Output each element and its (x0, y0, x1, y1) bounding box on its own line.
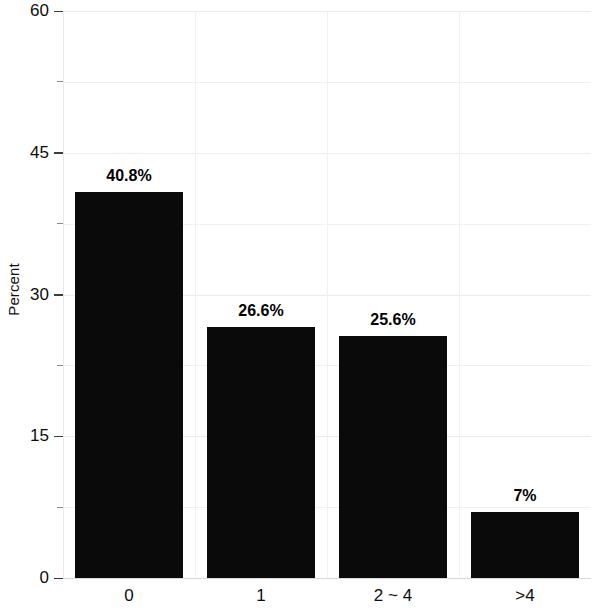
y-tick-mark (54, 152, 63, 154)
bar (471, 512, 579, 578)
y-tick: 60 (0, 11, 63, 12)
bar-value-label: 7% (455, 487, 595, 505)
x-tick-label: 0 (59, 586, 199, 606)
y-tick-label: 45 (30, 142, 49, 163)
x-tick-label: 2 ~ 4 (323, 586, 463, 606)
y-tick-mark-minor (57, 81, 63, 82)
y-tick-label: 60 (30, 0, 49, 21)
x-tick-label: >4 (455, 586, 595, 606)
bar (75, 192, 183, 578)
y-tick-minor (0, 365, 63, 366)
y-tick-minor (0, 224, 63, 225)
y-tick-mark (54, 294, 63, 296)
y-tick-mark-minor (57, 223, 63, 224)
y-tick: 15 (0, 436, 63, 437)
x-axis-line (63, 578, 591, 579)
bar-value-label: 25.6% (323, 311, 463, 329)
gridline-vertical (327, 11, 328, 578)
x-tick-label: 1 (191, 586, 331, 606)
bar (339, 336, 447, 578)
y-tick-label: 15 (30, 425, 49, 446)
y-tick-mark-minor (57, 507, 63, 508)
y-tick-mark (54, 436, 63, 438)
y-tick-mark (54, 578, 63, 580)
y-tick: 45 (0, 153, 63, 154)
bar-chart: Percent 015304560 40.8%26.6%25.6%7% 012 … (0, 0, 599, 613)
bar (207, 327, 315, 578)
y-tick-minor (0, 507, 63, 508)
y-tick: 30 (0, 295, 63, 296)
bar-value-label: 40.8% (59, 167, 199, 185)
y-axis-title: Percent (0, 0, 26, 578)
y-tick-label: 30 (30, 284, 49, 305)
y-tick-mark-minor (57, 365, 63, 366)
bar-value-label: 26.6% (191, 302, 331, 320)
y-axis-title-text: Percent (5, 263, 22, 315)
y-tick-label: 0 (40, 567, 49, 588)
y-axis-line (63, 11, 64, 579)
y-tick-minor (0, 82, 63, 83)
y-tick: 0 (0, 578, 63, 579)
y-tick-mark (54, 11, 63, 13)
gridline-vertical (195, 11, 196, 578)
